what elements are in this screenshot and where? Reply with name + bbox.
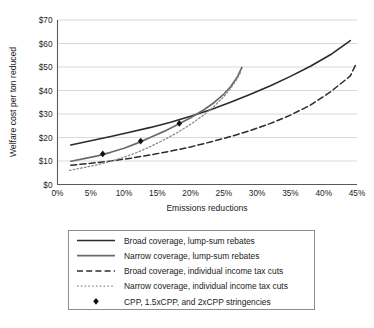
legend-entry-label: Broad coverage, lump-sum rebates: [124, 236, 255, 246]
x-tick-label: 40%: [315, 188, 332, 198]
x-tick-label: 25%: [216, 188, 233, 198]
y-tick-label: $20: [39, 133, 53, 143]
chart-figure: $0$10$20$30$40$50$60$70 0%5%10%15%20%25%…: [0, 0, 374, 328]
legend-entry-label: Narrow coverage, individual income tax c…: [124, 281, 288, 291]
y-tick-label: $60: [39, 39, 53, 49]
series-line: [71, 41, 351, 145]
chart-legend: Broad coverage, lump-sum rebatesNarrow c…: [69, 231, 315, 310]
y-tick-labels: $0$10$20$30$40$50$60$70: [39, 15, 53, 190]
legend-entry-label: CPP, 1.5xCPP, and 2xCPP stringencies: [124, 297, 271, 307]
diamond-marker: [100, 151, 106, 158]
x-tick-label: 10%: [116, 188, 133, 198]
series-line: [71, 65, 356, 166]
y-axis-title: Welfare cost per ton reduced: [8, 47, 18, 157]
x-tick-label: 30%: [249, 188, 266, 198]
x-tick-label: 15%: [149, 188, 166, 198]
legend-entry-label: Broad coverage, individual income tax cu…: [124, 266, 283, 276]
y-tick-label: $10: [39, 156, 53, 166]
x-tick-label: 45%: [349, 188, 366, 198]
data-series: [69, 41, 355, 171]
axis-lines: [57, 20, 357, 185]
x-axis-title: Emissions reductions: [166, 203, 247, 213]
x-tick-label: 5%: [85, 188, 98, 198]
x-tick-label: 20%: [182, 188, 199, 198]
legend-entry-label: Narrow coverage, lump-sum rebates: [124, 251, 259, 261]
x-tick-label: 35%: [282, 188, 299, 198]
x-tick-label: 0%: [52, 188, 65, 198]
series-line: [71, 67, 242, 161]
y-tick-label: $70: [39, 15, 53, 25]
gridlines: [58, 20, 358, 161]
y-tick-label: $30: [39, 109, 53, 119]
chart-svg: $0$10$20$30$40$50$60$70 0%5%10%15%20%25%…: [0, 0, 374, 328]
y-tick-label: $40: [39, 86, 53, 96]
x-tick-labels: 0%5%10%15%20%25%30%35%40%45%: [52, 188, 366, 198]
y-tick-label: $50: [39, 62, 53, 72]
